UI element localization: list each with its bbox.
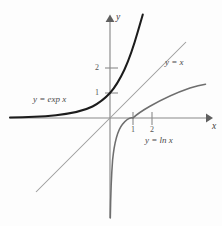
ln-curve-label: y = ln x xyxy=(145,136,173,145)
x-tick-label-1: 1 xyxy=(131,126,135,134)
y-tick-label-1: 1 xyxy=(95,89,99,97)
exp-curve-label: y = exp x xyxy=(33,95,66,104)
plot-canvas xyxy=(0,0,222,226)
exp-curve-series xyxy=(10,15,143,118)
y-axis-label: y xyxy=(116,13,120,23)
x-tick-label-2: 2 xyxy=(150,126,154,134)
identity-line-label: y = x xyxy=(165,58,184,67)
exp-ln-graph-figure: y x 2 1 1 2 y = exp x y = x y = ln x xyxy=(0,0,222,226)
y-tick-label-2: 2 xyxy=(95,64,99,72)
ln-curve-series xyxy=(110,84,205,218)
x-axis-label: x xyxy=(212,122,216,132)
identity-line-series xyxy=(36,42,186,192)
y-axis-arrow-icon xyxy=(106,15,115,23)
